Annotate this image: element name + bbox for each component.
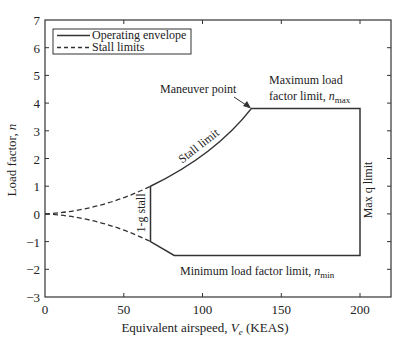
y-tick-label: 2 [34,152,41,167]
y-tick-label: 3 [34,124,41,139]
y-tick-label: 7 [34,13,41,28]
x-tick-label: 100 [193,302,213,317]
annotation-min-load-factor: Minimum load factor limit, nmin [180,264,335,280]
x-axis-label: Equivalent airspeed, Ve (KEAS) [121,320,288,337]
annotation-maneuver-point: Maneuver point [160,82,237,96]
y-tick-label: 6 [34,41,41,56]
legend-label-stall-limits: Stall limits [92,40,145,54]
annotation-max-load-factor: Maximum load [269,73,343,87]
y-tick-label: 0 [34,207,41,222]
legend: Operating envelope Stall limits [53,28,191,54]
y-tick-label: −2 [26,262,40,277]
y-tick-label: 1 [34,179,41,194]
y-axis-label: Load factor, n [4,124,19,197]
y-tick-label: −3 [26,290,40,305]
x-tick-labels: 0 50 100 150 200 [42,302,370,317]
y-tick-label: −1 [26,235,40,250]
operating-envelope [151,109,361,256]
annotation-max-load-factor-line2: factor limit, nmax [269,89,351,105]
x-tick-label: 50 [117,302,130,317]
x-tick-label: 150 [272,302,292,317]
arrowhead-icon [243,101,251,109]
y-tick-labels: 7 6 5 4 3 2 1 0 −1 −2 −3 [26,13,40,305]
annotation-max-q-limit: Max q limit [361,161,375,218]
x-tick-label: 0 [42,302,49,317]
v-n-diagram-chart: 7 6 5 4 3 2 1 0 −1 −2 −3 0 50 100 150 20… [0,0,407,344]
y-tick-label: 4 [34,96,41,111]
y-tick-label: 5 [34,68,41,83]
x-tick-label: 200 [350,302,370,317]
annotation-1g-stall: 1-g stall [134,193,148,233]
